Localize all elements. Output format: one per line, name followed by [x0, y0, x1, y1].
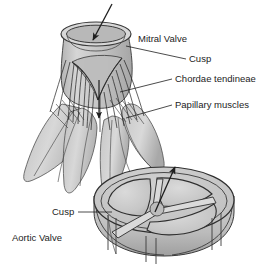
- label-chordae-tendineae: Chordae tendineae: [175, 73, 256, 84]
- label-papillary-muscles: Papillary muscles: [175, 99, 249, 110]
- valve-diagram-svg: Mitral Valve Cusp Chordae tendineae Papi…: [0, 0, 271, 277]
- aortic-valve-illustration: [94, 167, 234, 264]
- label-cusp-upper: Cusp: [189, 53, 211, 64]
- label-mitral-valve: Mitral Valve: [138, 33, 187, 44]
- label-aortic-valve: Aortic Valve: [12, 232, 62, 243]
- leader-cusp-upper: [126, 46, 186, 59]
- label-cusp-lower: Cusp: [52, 206, 74, 217]
- anatomy-figure: Mitral Valve Cusp Chordae tendineae Papi…: [0, 0, 271, 277]
